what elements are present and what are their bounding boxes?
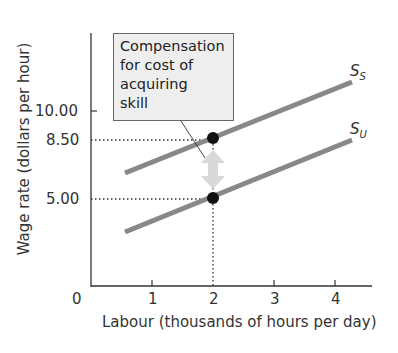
x-tick-label-4: 4 [331,290,341,308]
x-tick-label-2: 2 [209,290,219,308]
y-tick-label-8-50: 8.50 [46,131,79,149]
y-tick-label-10: 10.00 [35,102,78,120]
x-tick-label-3: 3 [270,290,280,308]
y-tick-label-5-00: 5.00 [46,190,79,208]
double-arrow-icon [201,150,225,189]
y-axis-label: Wage rate (dollars per hour) [15,39,33,259]
x-tick-label-0: 0 [72,290,82,308]
point-skilled-equilibrium [207,132,219,144]
curve-label-unskilled: SU [350,120,367,140]
callout-line-3: acquiring [120,75,227,94]
point-unskilled-equilibrium [207,192,219,204]
callout-line-1: Compensation [120,37,227,56]
curve-label-skilled: SS [350,62,366,82]
callout-line-4: skill [120,94,227,113]
supply-curve-unskilled [125,140,352,232]
callout-line-2: for cost of [120,56,227,75]
x-tick-label-1: 1 [148,290,158,308]
compensation-callout: Compensation for cost of acquiring skill [113,33,234,121]
callout-pointer [181,121,205,158]
x-axis-label: Labour (thousands of hours per day) [102,313,377,331]
